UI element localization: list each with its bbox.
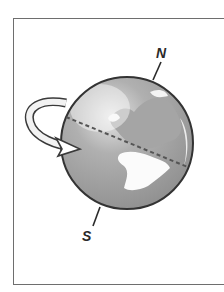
- earth-rotation-diagram: N S: [0, 0, 224, 292]
- south-axis-line: [93, 207, 100, 226]
- north-axis-line: [153, 62, 161, 80]
- north-label: N: [156, 45, 167, 61]
- globe-icon: [61, 77, 193, 209]
- south-label: S: [82, 228, 92, 244]
